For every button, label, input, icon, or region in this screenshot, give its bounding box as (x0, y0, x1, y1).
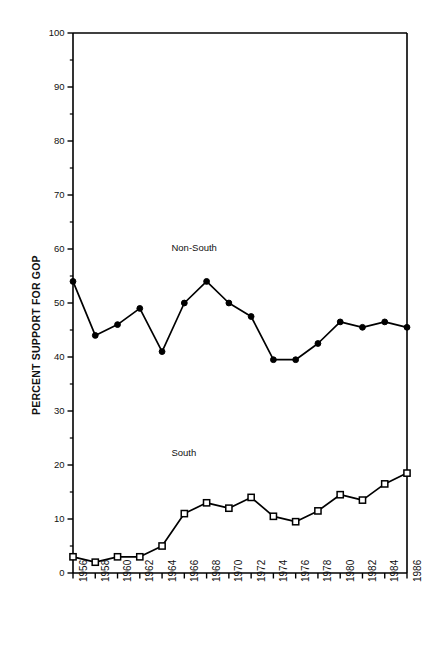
data-point (248, 494, 254, 500)
data-point (293, 519, 299, 525)
data-point (248, 314, 254, 320)
data-point (114, 554, 120, 560)
data-point (181, 511, 187, 517)
y-tick-label-20: 20 (39, 459, 65, 470)
y-tick-label-10: 10 (39, 513, 65, 524)
y-tick-label-100: 100 (39, 27, 65, 38)
x-tick-label-1968: 1968 (211, 560, 222, 582)
y-tick-label-30: 30 (39, 405, 65, 416)
axis-ticks (68, 33, 408, 579)
x-tick-label-1964: 1964 (167, 560, 178, 582)
data-point (181, 300, 187, 306)
data-point (337, 319, 343, 325)
y-tick-label-40: 40 (39, 351, 65, 362)
data-point (271, 357, 277, 363)
x-tick-label-1970: 1970 (233, 560, 244, 582)
data-point (204, 279, 210, 285)
x-tick-label-1986: 1986 (412, 560, 423, 582)
x-tick-label-1972: 1972 (256, 560, 267, 582)
plot-frame (73, 33, 407, 573)
data-point (159, 349, 165, 355)
data-point (360, 324, 366, 330)
data-point (137, 306, 143, 312)
y-tick-label-0: 0 (39, 567, 65, 578)
data-point (70, 279, 76, 285)
data-point (293, 357, 299, 363)
data-point (92, 559, 98, 565)
y-tick-label-60: 60 (39, 243, 65, 254)
x-tick-label-1974: 1974 (278, 560, 289, 582)
chart-figure: PERCENT SUPPORT FOR GOP 0102030405060708… (0, 0, 442, 649)
data-point (204, 500, 210, 506)
series-south (70, 470, 410, 565)
series-label-south: South (171, 447, 196, 458)
data-point (315, 341, 321, 347)
x-tick-label-1980: 1980 (345, 560, 356, 582)
x-tick-label-1962: 1962 (144, 560, 155, 582)
x-tick-label-1960: 1960 (122, 560, 133, 582)
data-point (92, 333, 98, 339)
series-label-non-south: Non-South (171, 242, 216, 253)
y-tick-label-90: 90 (39, 81, 65, 92)
x-tick-label-1982: 1982 (367, 560, 378, 582)
x-tick-label-1966: 1966 (189, 560, 200, 582)
data-point (382, 319, 388, 325)
data-point (70, 554, 76, 560)
data-point (115, 322, 121, 328)
series-non-south (70, 279, 410, 363)
data-point (226, 505, 232, 511)
data-point (137, 554, 143, 560)
data-point (226, 300, 232, 306)
x-tick-label-1984: 1984 (389, 560, 400, 582)
data-series (70, 279, 410, 566)
x-tick-label-1958: 1958 (100, 560, 111, 582)
data-point (382, 481, 388, 487)
x-tick-label-1976: 1976 (300, 560, 311, 582)
data-point (404, 324, 410, 330)
data-point (159, 543, 165, 549)
data-point (337, 492, 343, 498)
chart-plot-area (0, 0, 442, 649)
data-point (315, 508, 321, 514)
y-tick-label-70: 70 (39, 189, 65, 200)
y-axis-title: PERCENT SUPPORT FOR GOP (30, 255, 42, 415)
data-point (404, 470, 410, 476)
x-tick-label-1978: 1978 (322, 560, 333, 582)
data-point (270, 513, 276, 519)
x-tick-label-1956: 1956 (78, 560, 89, 582)
data-point (359, 497, 365, 503)
y-tick-label-50: 50 (39, 297, 65, 308)
y-tick-label-80: 80 (39, 135, 65, 146)
